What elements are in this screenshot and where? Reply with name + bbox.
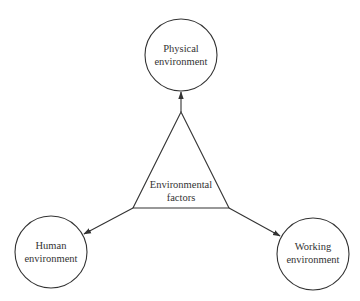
node-label-line-2: environment (286, 254, 339, 265)
node-label-line-2: environment (154, 56, 207, 67)
edge-to-human-arrow (84, 208, 133, 234)
circle-shape (145, 19, 217, 91)
node-label-line-1: Working (295, 241, 332, 252)
edge-to-working-arrow (229, 208, 280, 236)
node-working-environment: Working environment (277, 218, 349, 290)
node-human-environment: Human environment (15, 216, 87, 288)
center-label-line-2: factors (167, 192, 196, 203)
node-label-line-1: Physical (163, 43, 199, 54)
circle-shape (15, 216, 87, 288)
node-label-line-1: Human (36, 240, 68, 251)
node-label-line-2: environment (24, 253, 77, 264)
center-node-environmental-factors: Environmental factors (133, 112, 229, 208)
environmental-factors-diagram: Environmental factors Physical environme… (0, 0, 360, 301)
center-label-line-1: Environmental (150, 179, 212, 190)
node-physical-environment: Physical environment (145, 19, 217, 91)
